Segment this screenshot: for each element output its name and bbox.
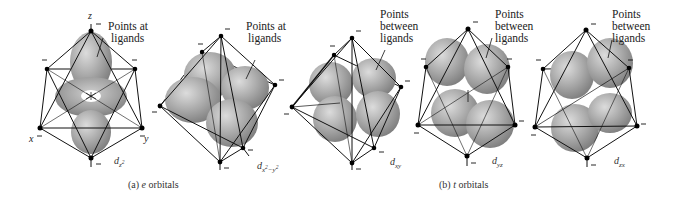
lobe [550, 51, 594, 99]
caption-text: orbitals [149, 179, 179, 190]
annotation-line: Points [495, 8, 533, 20]
orbital-subscript: zx [619, 161, 625, 169]
caption-symbol: t [453, 179, 456, 190]
lobe-bottom [71, 110, 111, 154]
annotation-dzx: Points between ligands [612, 8, 650, 44]
annotation-dyz: Points between ligands [495, 8, 533, 44]
axis-y-label: y [144, 133, 148, 144]
caption-symbol: e [142, 179, 146, 190]
orbital-subscript: −y [268, 166, 276, 174]
orbital-label-dyz: dyz [492, 155, 503, 169]
orbital-superscript: 2 [122, 159, 125, 165]
annotation-line: Points [612, 8, 650, 20]
annotation-line: Points at [108, 20, 148, 32]
annotation-line: ligands [380, 32, 418, 44]
d-orbital-diagram [0, 0, 680, 202]
annotation-line: between [612, 20, 650, 32]
panel-dx2-y2 [152, 29, 284, 170]
annotation-line: between [380, 20, 418, 32]
lobe [588, 93, 632, 133]
annotation-line: ligands [495, 32, 533, 44]
annotation-line: ligands [612, 32, 650, 44]
annotation-line: Points [380, 8, 418, 20]
orbital-subscript: yz [497, 161, 503, 169]
orbital-subscript: xy [395, 162, 401, 170]
lobe [464, 44, 510, 94]
orbital-label-dxy: dxy [390, 156, 401, 170]
axis-z-label: z [88, 10, 92, 21]
panel-dxy [284, 31, 410, 170]
annotation-line: between [495, 20, 533, 32]
axis-x-label: x [29, 133, 33, 144]
annotation-line: ligands [111, 32, 148, 44]
orbital-label-dz2: dz2 [114, 155, 124, 169]
orbital-label-dx2-y2: dx2−y2 [257, 160, 278, 174]
annotation-dz2: Points at ligands [108, 20, 148, 44]
caption-t-orbitals: (b) t orbitals [439, 179, 488, 190]
panel-dzx [531, 24, 646, 167]
annotation-dx2-y2: Points at ligands [246, 20, 286, 44]
lobe [313, 96, 357, 142]
caption-prefix: (a) [128, 179, 139, 190]
annotation-line: Points at [246, 20, 286, 32]
caption-prefix: (b) [439, 179, 451, 190]
annotation-line: ligands [248, 32, 286, 44]
caption-e-orbitals: (a) e orbitals [128, 179, 179, 190]
caption-text: orbitals [458, 179, 488, 190]
orbital-label-dzx: dzx [614, 155, 625, 169]
panel-dz2 [37, 24, 145, 167]
annotation-dxy: Points between ligands [380, 8, 418, 44]
orbital-superscript: 2 [276, 164, 279, 170]
